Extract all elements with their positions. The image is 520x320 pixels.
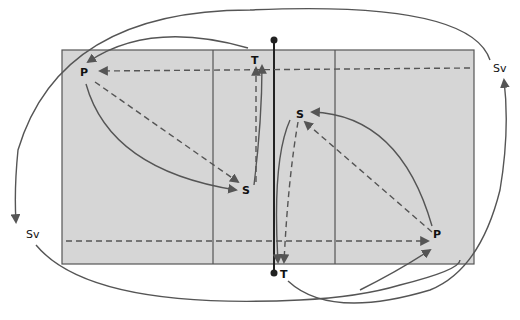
court-diagram: P S T S P T Sv Sv [0,0,520,320]
label-left-p: P [80,66,88,79]
label-bottom-t: T [280,268,288,281]
label-top-t: T [251,54,259,67]
label-left-s: S [242,184,250,197]
net-post-bottom [271,270,278,277]
label-left-sv: Sv [26,228,40,241]
net-post-top [271,37,278,44]
label-right-sv: Sv [493,62,507,75]
label-right-s: S [296,108,304,121]
label-right-p: P [433,228,441,241]
